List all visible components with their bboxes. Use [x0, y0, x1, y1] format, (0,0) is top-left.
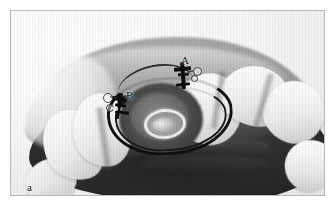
annotation-label-a: A [181, 55, 189, 66]
palatal-rugae-3 [141, 156, 271, 172]
clinical-photograph: A B a [11, 11, 324, 195]
ligature-marker-b-1 [103, 93, 113, 103]
annotation-label-b: B [126, 90, 133, 101]
ligature-marker-b-3 [113, 106, 118, 111]
photo-frame: A B a [10, 10, 325, 196]
ligature-marker-a-2 [191, 75, 198, 82]
panel-label: a [27, 182, 32, 193]
figure-root: A B a [0, 0, 335, 206]
